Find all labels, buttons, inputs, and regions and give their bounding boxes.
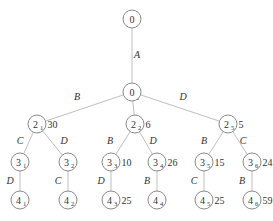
edge-label: A (133, 49, 141, 60)
node-value: 59 (263, 195, 273, 206)
node-label: 4 (153, 195, 158, 206)
edge-n2_5-n3_5 (209, 132, 223, 155)
node-label: 4 (64, 195, 69, 206)
node-label: 2 (224, 119, 229, 130)
tree-node-n2_1: 2130 (28, 115, 58, 133)
tree-node-n2_5: 255 (219, 115, 244, 133)
node-value: 10 (122, 157, 132, 168)
edge-n2_1-n3_2 (43, 131, 63, 155)
node-subscript: 1 (23, 200, 26, 207)
tree-node-n4_4: 44 (148, 191, 166, 209)
edge-label: D (178, 91, 187, 102)
tree-node-n3_1: 31 (11, 153, 29, 171)
node-label: 0 (130, 14, 135, 25)
node-label: 3 (200, 157, 205, 168)
edge-label: B (107, 135, 113, 146)
node-label: 4 (248, 195, 253, 206)
tree-node-n3_3: 3310 (102, 153, 132, 171)
tree-node-n4_1: 41 (11, 191, 29, 209)
edge-label: C (240, 135, 247, 146)
edge-label: D (5, 175, 14, 186)
node-subscript: 5 (231, 124, 234, 131)
node-label: 4 (107, 195, 112, 206)
tree-node-n3_4: 3426 (148, 153, 178, 171)
node-value: 24 (263, 157, 273, 168)
node-subscript: 5 (207, 200, 210, 207)
node-value: 30 (48, 119, 58, 130)
node-subscript: 2 (71, 162, 74, 169)
node-subscript: 3 (114, 200, 117, 207)
edge-label: D (148, 135, 157, 146)
tree-node-n3_2: 32 (59, 153, 77, 171)
tree-node-root: 0 (123, 10, 141, 28)
node-label: 2 (131, 119, 136, 130)
tree-node-n3_5: 3515 (195, 153, 225, 171)
node-subscript: 2 (138, 124, 141, 131)
node-subscript: 1 (23, 162, 26, 169)
tree-node-n4_5: 4525 (195, 191, 225, 209)
node-subscript: 2 (71, 200, 74, 207)
node-subscript: 5 (207, 162, 210, 169)
node-value: 15 (215, 157, 225, 168)
node-label: 4 (200, 195, 205, 206)
node-value: 26 (168, 157, 178, 168)
node-value: 6 (146, 119, 151, 130)
node-label: 3 (153, 157, 158, 168)
node-subscript: 1 (40, 124, 43, 131)
node-label: 0 (130, 87, 135, 98)
edge-n0-n2_2 (133, 101, 134, 115)
tree-diagram: ABCDCDBDBCDCDBCB 00213022625531323310342… (0, 0, 273, 221)
tree-node-n0: 0 (123, 83, 141, 101)
edge-n2_1-n3_1 (24, 132, 34, 154)
node-value: 25 (122, 195, 132, 206)
edge-n2_2-n3_3 (116, 132, 130, 155)
node-subscript: 3 (114, 162, 117, 169)
node-label: 2 (33, 119, 38, 130)
edge-label: B (74, 91, 80, 102)
node-label: 4 (16, 195, 21, 206)
node-label: 3 (248, 157, 253, 168)
node-value: 25 (215, 195, 225, 206)
edge-label: B (239, 175, 245, 186)
edge-label: B (201, 135, 207, 146)
edge-label: C (191, 175, 198, 186)
edge-label: D (96, 175, 105, 186)
edge-label: C (55, 175, 62, 186)
node-label: 3 (16, 157, 21, 168)
tree-node-n4_2: 42 (59, 191, 77, 209)
edge-n0-n2_1 (46, 95, 124, 121)
edge-label: D (59, 135, 68, 146)
node-label: 3 (107, 157, 112, 168)
edge-label: C (17, 135, 24, 146)
node-value: 5 (239, 119, 244, 130)
tree-node-n3_6: 3624 (243, 153, 273, 171)
node-label: 3 (64, 157, 69, 168)
tree-node-n4_6: 4659 (243, 191, 273, 209)
tree-node-n4_3: 4325 (102, 191, 132, 209)
nodes: 0021302262553132331034263515362441424325… (11, 10, 273, 209)
edge-label: B (144, 175, 150, 186)
tree-node-n2_2: 226 (126, 115, 151, 133)
